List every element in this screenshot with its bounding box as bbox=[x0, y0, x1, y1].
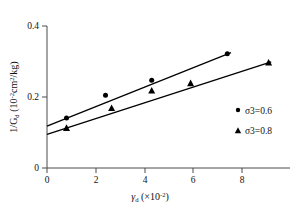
svg-text:1/Gd (10-2cm2/kg): 1/Gd (10-2cm2/kg) bbox=[8, 61, 21, 132]
data-point-triangle bbox=[187, 80, 194, 87]
data-point-circle bbox=[64, 115, 69, 120]
data-point-circle bbox=[225, 51, 230, 56]
scatter-plot: 0.4 0.2 0 0 2 4 6 8 1/Gd (10-2cm2/kg) γd… bbox=[0, 0, 308, 208]
legend-marker-triangle-icon bbox=[235, 127, 241, 133]
y-tick-label-0.4: 0.4 bbox=[27, 21, 39, 31]
x-tick-label-0: 0 bbox=[45, 175, 50, 185]
x-tick-label-4: 4 bbox=[143, 175, 148, 185]
fit-line-sigma3-0.6 bbox=[47, 53, 231, 127]
y-tick-label-0: 0 bbox=[34, 163, 39, 173]
data-point-circle bbox=[103, 93, 108, 98]
y-tick-label-0.2: 0.2 bbox=[27, 92, 39, 102]
x-tick-label-8: 8 bbox=[240, 175, 245, 185]
legend-label-sigma3-0.8: σ3=0.8 bbox=[245, 126, 272, 136]
data-point-triangle bbox=[148, 87, 155, 94]
x-title-paren-close: ) bbox=[165, 191, 168, 203]
legend: σ3=0.6 σ3=0.8 bbox=[235, 106, 273, 136]
x-title-paren-open: (×10 bbox=[138, 191, 159, 203]
y-axis-title: 1/Gd (10-2cm2/kg) bbox=[8, 61, 21, 132]
legend-label-sigma3-0.6: σ3=0.6 bbox=[245, 106, 272, 116]
data-point-triangle bbox=[108, 104, 115, 111]
x-tick-label-6: 6 bbox=[191, 175, 196, 185]
y-title-lead: 1/G bbox=[8, 118, 19, 133]
y-title-cm: cm bbox=[8, 81, 19, 93]
y-title-tail: /kg) bbox=[8, 61, 20, 77]
chart-figure: 0.4 0.2 0 0 2 4 6 8 1/Gd (10-2cm2/kg) γd… bbox=[0, 0, 308, 208]
x-axis-title: γd (×10-2) bbox=[131, 191, 169, 204]
y-title-mid-open: (10 bbox=[8, 98, 20, 114]
legend-marker-circle-icon bbox=[236, 108, 240, 112]
x-tick-label-2: 2 bbox=[94, 175, 99, 185]
data-point-circle bbox=[149, 78, 154, 83]
fit-line-sigma3-0.8 bbox=[47, 62, 271, 134]
